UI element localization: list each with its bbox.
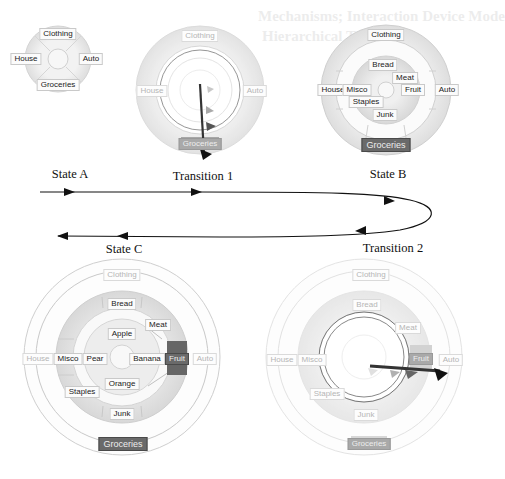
state-c-item-meat[interactable]: Meat [145, 319, 171, 331]
caption-transition-2: Transition 2 [363, 241, 423, 256]
transition-2-item-house: House [266, 354, 297, 366]
state-c-item-misco[interactable]: Misco [54, 353, 83, 365]
arrow-right-icon [191, 188, 202, 196]
transition-2-item-fruit: Fruit [409, 353, 433, 365]
state-b-item-auto[interactable]: Auto [435, 84, 459, 96]
transition-2-item-bread: Bread [352, 299, 381, 311]
state-a-item-house[interactable]: House [10, 53, 41, 65]
state-c-item-orange[interactable]: Orange [105, 378, 140, 390]
transition-2-item-groceries: Groceries [348, 438, 391, 450]
state-b-item-clothing[interactable]: Clothing [367, 29, 404, 41]
state-c-item-junk[interactable]: Junk [110, 408, 135, 420]
state-b-item-groceries-selected[interactable]: Groceries [361, 138, 410, 152]
transition-2-item-clothing: Clothing [352, 269, 389, 281]
state-a-item-clothing[interactable]: Clothing [39, 28, 76, 40]
caption-state-c: State C [106, 242, 142, 257]
transition-1-item-auto: Auto [243, 85, 267, 97]
state-c-item-groceries-selected[interactable]: Groceries [98, 437, 147, 451]
transition-2-item-misco: Misco [298, 354, 327, 366]
transition-2-item-staples: Staples [310, 388, 345, 400]
state-c-item-clothing[interactable]: Clothing [103, 269, 140, 281]
arrow-left-icon [57, 232, 68, 240]
transition-2-item-meat: Meat [395, 322, 421, 334]
caption-transition-1: Transition 1 [173, 169, 233, 184]
state-b-item-junk[interactable]: Junk [373, 109, 398, 121]
state-c-item-house[interactable]: House [22, 353, 53, 365]
caption-state-a: State A [52, 167, 88, 182]
arrow-right-icon [64, 188, 75, 196]
state-b-item-bread[interactable]: Bread [368, 59, 397, 71]
state-c-item-auto[interactable]: Auto [193, 353, 217, 365]
state-a-item-groceries[interactable]: Groceries [37, 79, 80, 91]
transition-1-item-house: House [136, 85, 167, 97]
transition-2-item-junk: Junk [354, 409, 379, 421]
caption-state-b: State B [370, 167, 406, 182]
state-c-item-staples[interactable]: Staples [65, 386, 100, 398]
state-c-item-fruit-selected[interactable]: Fruit [165, 353, 189, 365]
flow-arrowheads [57, 188, 395, 240]
transition-1-item-clothing: Clothing [181, 30, 218, 42]
flow-path [40, 192, 431, 237]
transition-2-item-auto: Auto [439, 354, 463, 366]
state-a-item-auto[interactable]: Auto [79, 53, 103, 65]
state-c-item-bread[interactable]: Bread [107, 298, 136, 310]
state-c-item-apple[interactable]: Apple [108, 328, 136, 340]
state-b-item-staples[interactable]: Staples [349, 96, 384, 108]
state-b-item-meat[interactable]: Meat [392, 72, 418, 84]
transition-1-item-groceries: Groceries [179, 138, 222, 150]
state-b-item-fruit[interactable]: Fruit [401, 84, 425, 96]
state-c-item-pear[interactable]: Pear [83, 353, 108, 365]
arrow-left-icon [117, 232, 128, 240]
state-b-item-misco[interactable]: Misco [343, 84, 372, 96]
state-c-item-banana[interactable]: Banana [129, 353, 165, 365]
